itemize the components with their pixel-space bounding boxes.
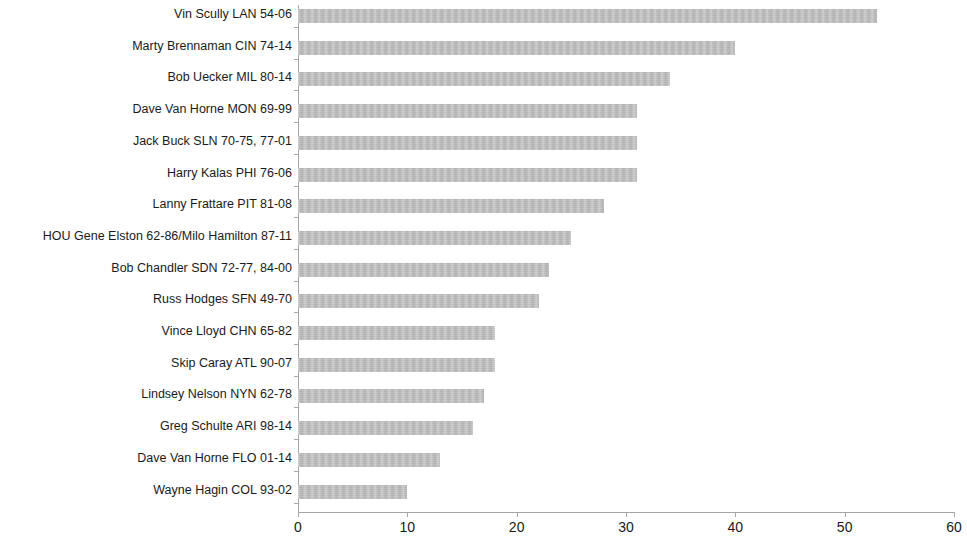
x-axis-tick <box>735 512 736 517</box>
bar <box>298 358 495 372</box>
x-axis-tick <box>517 512 518 517</box>
x-axis-tick <box>954 512 955 517</box>
x-axis-tick-label: 30 <box>618 519 634 535</box>
y-axis-tick <box>294 439 298 440</box>
category-label: Vin Scully LAN 54-06 <box>0 7 292 21</box>
bar <box>298 326 495 340</box>
category-label: Skip Caray ATL 90-07 <box>0 356 292 370</box>
bar <box>298 485 407 499</box>
bar <box>298 41 735 55</box>
bar <box>298 104 637 118</box>
y-axis-tick <box>294 281 298 282</box>
category-label: Wayne Hagin COL 93-02 <box>0 483 292 497</box>
category-label: Dave Van Horne MON 69-99 <box>0 102 292 116</box>
x-axis-tick <box>845 512 846 517</box>
x-axis-tick-label: 50 <box>837 519 853 535</box>
category-label: Harry Kalas PHI 76-06 <box>0 166 292 180</box>
category-label: Dave Van Horne FLO 01-14 <box>0 451 292 465</box>
y-axis-tick <box>294 27 298 28</box>
y-axis-tick <box>294 249 298 250</box>
y-axis-tick <box>294 407 298 408</box>
bar <box>298 199 604 213</box>
bar <box>298 263 549 277</box>
bar <box>298 389 484 403</box>
bar-chart: Vin Scully LAN 54-06Marty Brennaman CIN … <box>0 0 967 542</box>
bar <box>298 294 539 308</box>
y-axis-tick <box>294 90 298 91</box>
y-axis-tick <box>294 122 298 123</box>
bar <box>298 231 571 245</box>
x-axis-tick-label: 10 <box>400 519 416 535</box>
y-axis-tick <box>294 376 298 377</box>
y-axis-tick <box>294 503 298 504</box>
bar <box>298 136 637 150</box>
category-label: Russ Hodges SFN 49-70 <box>0 292 292 306</box>
category-label: Lanny Frattare PIT 81-08 <box>0 197 292 211</box>
y-axis-tick <box>294 471 298 472</box>
x-axis-tick-label: 60 <box>946 519 962 535</box>
y-axis-tick <box>294 312 298 313</box>
bar <box>298 9 877 23</box>
x-axis-tick-label: 0 <box>294 519 302 535</box>
bar <box>298 421 473 435</box>
bar <box>298 453 440 467</box>
y-axis-tick <box>294 186 298 187</box>
bar <box>298 72 670 86</box>
category-label: Vince Lloyd CHN 65-82 <box>0 324 292 338</box>
category-label: Marty Brennaman CIN 74-14 <box>0 39 292 53</box>
category-label: Greg Schulte ARI 98-14 <box>0 419 292 433</box>
y-axis-tick <box>294 217 298 218</box>
y-axis-tick <box>294 59 298 60</box>
y-axis-tick <box>294 154 298 155</box>
x-axis-tick-label: 40 <box>728 519 744 535</box>
x-axis-tick-label: 20 <box>509 519 525 535</box>
x-axis-tick <box>407 512 408 517</box>
bar <box>298 168 637 182</box>
category-label: Bob Uecker MIL 80-14 <box>0 70 292 84</box>
y-axis-tick <box>294 344 298 345</box>
category-label: Lindsey Nelson NYN 62-78 <box>0 387 292 401</box>
x-axis-tick <box>298 512 299 517</box>
x-axis-tick <box>626 512 627 517</box>
category-label: Bob Chandler SDN 72-77, 84-00 <box>0 261 292 275</box>
category-label: Jack Buck SLN 70-75, 77-01 <box>0 134 292 148</box>
category-label: HOU Gene Elston 62-86/Milo Hamilton 87-1… <box>0 229 292 243</box>
